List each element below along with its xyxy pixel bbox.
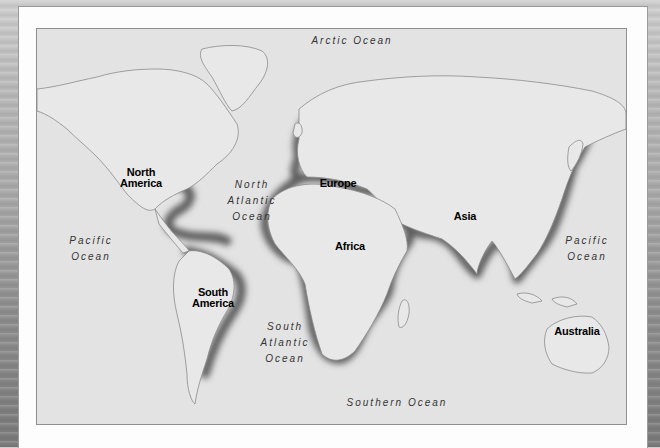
label-australia: Australia (547, 326, 607, 337)
continent-label-line: Australia (547, 326, 607, 337)
ocean-label-line: Pacific (61, 233, 121, 249)
label-europe: Europe (313, 178, 363, 189)
ocean-label-line: Atlantic (253, 335, 317, 351)
ocean-label-text: Southern Ocean (347, 397, 448, 408)
continent-label-line: America (111, 178, 171, 189)
ocean-label-line: Ocean (555, 249, 619, 265)
ocean-label-line: South (253, 319, 317, 335)
label-africa: Africa (325, 241, 375, 252)
ocean-label-line: Ocean (61, 249, 121, 265)
label-asia: Asia (445, 211, 485, 222)
ocean-label-text: Arctic Ocean (311, 35, 392, 46)
label-southern-ocean: Southern Ocean (337, 395, 457, 411)
ocean-label-line: Ocean (217, 209, 287, 225)
ocean-label-line: Ocean (253, 351, 317, 367)
ocean-label-line: Pacific (555, 233, 619, 249)
continent-label-line: Asia (445, 211, 485, 222)
ocean-label-line: North (217, 177, 287, 193)
world-map: Arctic Ocean North Atlantic Ocean Pacifi… (36, 28, 627, 425)
label-south-atlantic-ocean: South Atlantic Ocean (253, 319, 317, 367)
land-outlines (37, 45, 626, 404)
label-south-america: South America (183, 287, 243, 309)
continent-label-line: Africa (325, 241, 375, 252)
label-pacific-ocean-west: Pacific Ocean (61, 233, 121, 265)
label-north-atlantic-ocean: North Atlantic Ocean (217, 177, 287, 225)
label-north-america: North America (111, 167, 171, 189)
ocean-label-line: Atlantic (217, 193, 287, 209)
continent-label-line: America (183, 298, 243, 309)
label-pacific-ocean-east: Pacific Ocean (555, 233, 619, 265)
label-arctic-ocean: Arctic Ocean (292, 33, 412, 49)
continent-label-line: Europe (313, 178, 363, 189)
map-shapes (37, 29, 626, 424)
